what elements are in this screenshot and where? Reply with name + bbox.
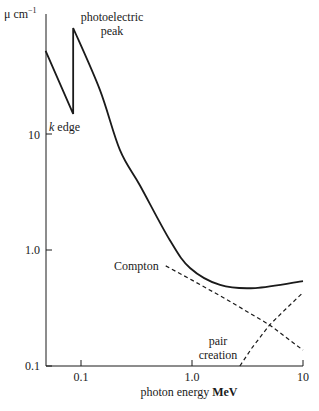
annotation-pair-line1: pair: [199, 334, 238, 348]
annotation-pair-creation: pair creation: [199, 334, 238, 362]
series-total-attenuation: [46, 28, 303, 288]
annotation-photo-line2: peak: [81, 24, 144, 38]
annotation-k-rest: edge: [54, 120, 80, 134]
y-tick-0.1: 0.1: [0, 359, 40, 374]
annotation-k-edge: k edge: [49, 120, 80, 134]
annotation-compton-text: Compton: [114, 259, 159, 273]
y-axis-symbol: μ: [4, 7, 10, 21]
chart-plot-area: [0, 0, 319, 411]
annotation-pair-line2: creation: [199, 348, 238, 362]
y-axis-exponent: −1: [28, 6, 37, 15]
series-pair-creation: [240, 293, 303, 366]
x-axis-text: photon energy: [140, 385, 209, 399]
y-axis-unit: cm: [13, 7, 28, 21]
x-tick-10: 10: [297, 370, 309, 385]
x-axis-unit: MeV: [212, 385, 237, 399]
axes: [46, 14, 303, 366]
series-group: [46, 28, 303, 366]
x-tick-0.1: 0.1: [74, 370, 89, 385]
y-tick-1: 1.0: [0, 243, 40, 258]
annotation-photo-line1: photoelectric: [81, 10, 144, 24]
annotation-photoelectric-peak: photoelectric peak: [81, 10, 144, 38]
x-tick-1: 1.0: [185, 370, 200, 385]
x-axis-label: photon energy MeV: [140, 385, 237, 399]
y-axis-label: μ cm−1: [4, 4, 37, 21]
y-tick-10: 10: [0, 128, 40, 143]
annotation-compton: Compton: [114, 259, 159, 273]
